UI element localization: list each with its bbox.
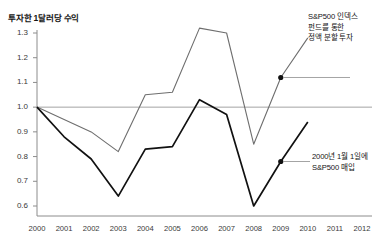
series-line-lump-sum [37, 100, 308, 206]
annotation-line: 펀드를 통한 [308, 23, 357, 34]
annotation-leader-lines [284, 77, 350, 161]
annotation-line: S&P500 인덱스 [308, 12, 357, 23]
annotation-line: 2000년 1월 1일에 [312, 152, 368, 163]
annotation-line: 정액 분할 투자 [308, 33, 357, 44]
annotation-dollar-cost-averaging: S&P500 인덱스펀드를 통한정액 분할 투자 [308, 12, 357, 44]
annotation-line: S&P500 매입 [312, 163, 368, 174]
series-line-dollar-cost-averaging [37, 28, 308, 152]
annotation-point-markers [278, 75, 283, 164]
y-axis-ticks [33, 33, 37, 206]
axis-group [33, 30, 372, 216]
annotation-lump-sum: 2000년 1월 1일에S&P500 매입 [312, 152, 368, 173]
chart-container: 투자한 1달러당 수익 1.31.21.11.00.90.80.70.6 200… [0, 0, 381, 246]
